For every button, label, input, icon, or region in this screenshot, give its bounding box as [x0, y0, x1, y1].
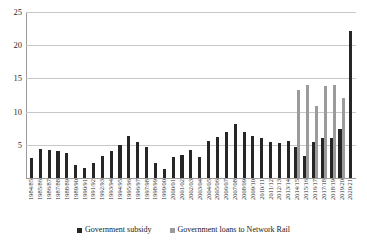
bar-subsidy — [65, 153, 68, 178]
x-tick-label: 1984/85 — [28, 179, 34, 200]
x-tick-cell: 2002/03 — [186, 179, 195, 221]
x-tick-label: 2003/04 — [197, 179, 203, 200]
bar-group — [71, 12, 80, 178]
bar-subsidy — [189, 150, 192, 178]
bar-subsidy — [234, 124, 237, 178]
bar-group — [204, 12, 213, 178]
x-tick-cell: 2009/10 — [248, 179, 257, 221]
x-tick-cell: 1999/00 — [160, 179, 169, 221]
x-tick-cell: 2020/21 — [346, 179, 355, 221]
bar-group — [328, 12, 337, 178]
bar-subsidy — [349, 31, 352, 178]
x-tick-cell: 1990/91 — [80, 179, 89, 221]
x-tick-label: 2006/07 — [223, 179, 229, 200]
bar-group — [275, 12, 284, 178]
x-tick-label: 2014/15 — [294, 179, 300, 200]
x-tick-label: 2012/13 — [276, 179, 282, 200]
x-tick-cell: 2006/07 — [222, 179, 231, 221]
x-tick-label: 2001/02 — [179, 179, 185, 200]
x-tick-cell: 2005/06 — [213, 179, 222, 221]
x-tick-cell: 2012/13 — [275, 179, 284, 221]
bar-group — [248, 12, 257, 178]
bar-subsidy — [56, 151, 59, 178]
bar-subsidy — [83, 168, 86, 178]
x-tick-label: 1993/94 — [108, 179, 114, 200]
bar-subsidy — [225, 132, 228, 178]
x-tick-cell: 2017/18 — [319, 179, 328, 221]
bar-subsidy — [110, 151, 113, 178]
bar-group — [107, 12, 116, 178]
bar-subsidy — [154, 163, 157, 178]
bar-group — [160, 12, 169, 178]
bar-series-container — [26, 12, 356, 178]
x-tick-label: 1998/99 — [152, 179, 158, 200]
bar-group — [54, 12, 63, 178]
x-tick-cell: 2011/12 — [266, 179, 275, 221]
y-tick-label-20: 20 — [14, 41, 23, 50]
bar-subsidy — [30, 158, 33, 178]
bar-subsidy — [260, 138, 263, 179]
x-tick-cell: 1998/99 — [151, 179, 160, 221]
legend-swatch-icon — [170, 228, 175, 233]
x-tick-label: 2004/05 — [205, 179, 211, 200]
x-tick-cell: 1991/92 — [89, 179, 98, 221]
y-tick-label-5: 5 — [18, 141, 22, 150]
x-tick-label: 2013/14 — [285, 179, 291, 200]
x-tick-cell: 1992/93 — [98, 179, 107, 221]
bar-subsidy — [172, 157, 175, 178]
x-tick-cell: 1987/88 — [54, 179, 63, 221]
bar-loans — [342, 98, 345, 178]
bar-group — [213, 12, 222, 178]
x-tick-label: 2005/06 — [214, 179, 220, 200]
x-tick-cell: 2013/14 — [284, 179, 293, 221]
x-tick-cell: 2000/01 — [169, 179, 178, 221]
bar-subsidy — [39, 149, 42, 178]
x-axis-tick-labels: 1984/851985/861986/871987/881988/891989/… — [26, 179, 356, 221]
bar-group — [98, 12, 107, 178]
x-tick-label: 2002/03 — [188, 179, 194, 200]
bar-group — [178, 12, 187, 178]
x-tick-label: 2015/16 — [303, 179, 309, 200]
bar-group — [27, 12, 36, 178]
bar-subsidy — [136, 142, 139, 178]
legend-swatch-icon — [77, 228, 82, 233]
bar-group — [319, 12, 328, 178]
x-tick-cell: 2018/19 — [328, 179, 337, 221]
x-tick-label: 1996/97 — [135, 179, 141, 200]
bar-loans — [333, 85, 336, 178]
x-tick-cell: 1993/94 — [107, 179, 116, 221]
x-tick-cell: 2003/04 — [195, 179, 204, 221]
y-axis-tick-labels: 510152025 — [0, 12, 22, 178]
bar-group — [293, 12, 302, 178]
bar-subsidy — [278, 143, 281, 178]
bar-group — [142, 12, 151, 178]
bar-subsidy — [216, 137, 219, 178]
x-tick-label: 1985/86 — [37, 179, 43, 200]
x-tick-cell: 2019/20 — [337, 179, 346, 221]
bar-subsidy — [101, 156, 104, 178]
x-tick-cell: 1994/95 — [116, 179, 125, 221]
bar-group — [151, 12, 160, 178]
bar-group — [302, 12, 311, 178]
x-tick-label: 1999/00 — [161, 179, 167, 200]
x-tick-label: 2017/18 — [321, 179, 327, 200]
x-tick-label: 1986/87 — [46, 179, 52, 200]
x-tick-label: 1991/92 — [90, 179, 96, 200]
bar-subsidy — [251, 136, 254, 178]
x-tick-label: 1989/90 — [73, 179, 79, 200]
legend-label: Government loans to Network Rail — [178, 226, 290, 234]
x-tick-cell: 2016/17 — [311, 179, 320, 221]
x-tick-cell: 1985/86 — [36, 179, 45, 221]
bar-loans — [306, 85, 309, 178]
bar-subsidy — [269, 142, 272, 178]
x-tick-cell: 2015/16 — [302, 179, 311, 221]
legend-item-loans: Government loans to Network Rail — [170, 226, 290, 234]
bar-group — [195, 12, 204, 178]
bar-subsidy — [145, 147, 148, 178]
bar-group — [311, 12, 320, 178]
x-tick-cell: 2007/08 — [231, 179, 240, 221]
bar-subsidy — [243, 132, 246, 178]
bar-group — [346, 12, 355, 178]
x-tick-label: 1995/96 — [126, 179, 132, 200]
x-tick-label: 2007/08 — [232, 179, 238, 200]
